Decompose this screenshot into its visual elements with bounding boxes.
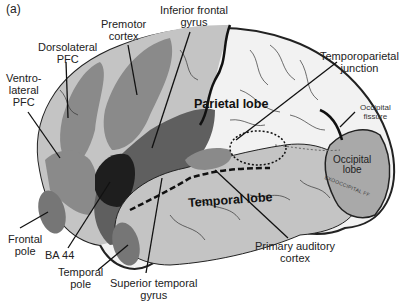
label-line: gyrus [110,289,197,301]
label-ventrolateral-pfc: Ventro- lateral PFC [6,72,41,108]
label-line: Ventro- [6,72,41,84]
label-line: Dorsolateral [38,41,97,53]
label-line: PFC [38,53,97,65]
occipital-lobe-label: Occipital lobe [333,155,371,175]
label-line: Temporal [58,266,103,278]
label-line: BA 44 [45,249,74,261]
label-line: cortex [101,30,146,42]
label-line: pole [58,278,103,290]
label-inferior-frontal-gyrus: Inferior frontal gyrus [160,4,228,28]
label-ba44: BA 44 [45,249,74,261]
label-line: Occipital [360,103,391,112]
label-line: pole [8,245,42,257]
label-line: lateral [6,84,41,96]
label-occipital-fissure: Occipital fissure [360,103,391,121]
label-frontal-pole: Frontal pole [8,233,42,257]
label-line: Premotor [101,18,146,30]
label-line: Inferior frontal [160,4,228,16]
label-line: junction [320,62,399,74]
label-line: PFC [6,96,41,108]
label-line: lobe [333,165,371,175]
label-line: cortex [255,252,335,264]
label-line: Primary auditory [255,240,335,252]
label-line: Temporoparietal [320,50,399,62]
label-primary-auditory-cortex: Primary auditory cortex [255,240,335,264]
label-superior-temporal-gyrus: Superior temporal gyrus [110,277,197,301]
panel-label: (a) [6,2,21,16]
label-line: gyrus [160,16,228,28]
label-line: Superior temporal [110,277,197,289]
label-line: Frontal [8,233,42,245]
parietal-lobe-label: Parietal lobe [194,97,268,111]
brain-diagram: (a) Dorsolateral PFC Ventro- lateral PFC… [0,0,401,308]
label-premotor-cortex: Premotor cortex [101,18,146,42]
label-temporal-pole: Temporal pole [58,266,103,290]
label-dorsolateral-pfc: Dorsolateral PFC [38,41,97,65]
label-line: fissure [360,112,391,121]
label-temporoparietal-junction: Temporoparietal junction [320,50,399,74]
